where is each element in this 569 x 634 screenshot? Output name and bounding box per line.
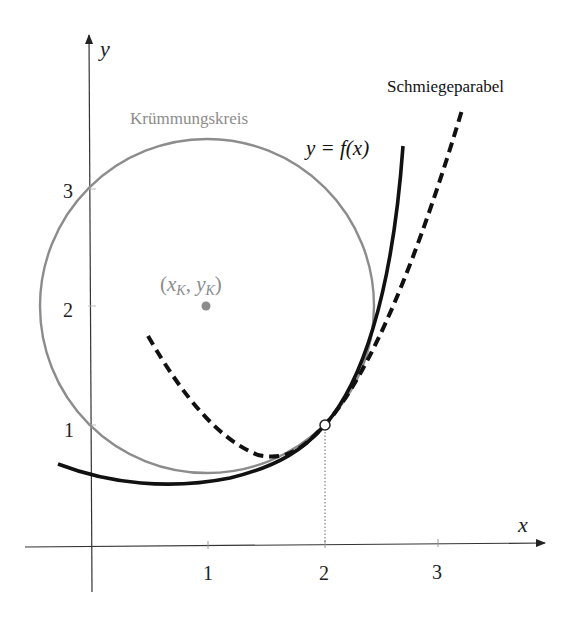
function-curve [58,146,403,484]
curvature-circle-label: Krümmungskreis [130,109,248,128]
x-tick-label-1: 1 [203,562,213,584]
touching-point [320,420,330,430]
y-tick-label-3: 3 [63,180,73,202]
circle-center-point [202,302,211,311]
x-axis [25,543,545,547]
y-axis [89,35,92,592]
function-label: y = f(x) [304,136,369,160]
y-ticks [88,189,96,425]
osculating-parabola-label: Schmiegeparabel [387,77,504,96]
y-tick-label-1: 1 [64,419,74,441]
x-tick-label-2: 2 [319,562,329,584]
x-axis-label: x [517,512,528,537]
y-tick-label-2: 2 [63,299,73,321]
diagram-canvas: x y 1 2 3 1 2 3 Krümmungskreis Schmiegep… [0,0,569,634]
y-axis-label: y [98,36,110,61]
x-tick-label-3: 3 [432,561,442,583]
circle-center-label: (xK, yK) [160,272,222,298]
